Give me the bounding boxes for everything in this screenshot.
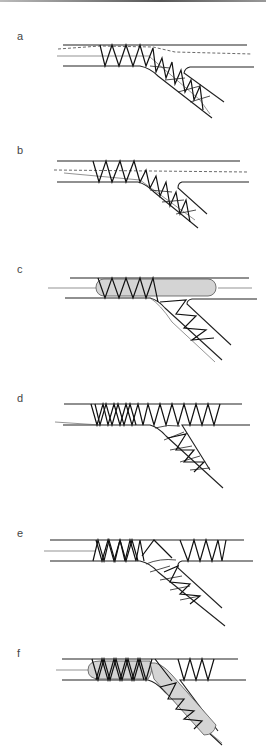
- panel-a: a: [0, 0, 266, 125]
- panel-b: b: [0, 130, 266, 240]
- bifurcation-diagram-c: [0, 240, 266, 370]
- bifurcation-diagram-b: [0, 130, 266, 240]
- panel-e: e: [0, 500, 266, 625]
- bifurcation-diagram-d: [0, 370, 266, 500]
- bifurcation-diagram-f: [0, 625, 266, 752]
- panel-d: d: [0, 370, 266, 500]
- bifurcation-diagram-e: [0, 500, 266, 625]
- panel-f: f: [0, 625, 266, 752]
- bifurcation-diagram-a: [0, 0, 266, 125]
- panel-c: c: [0, 240, 266, 370]
